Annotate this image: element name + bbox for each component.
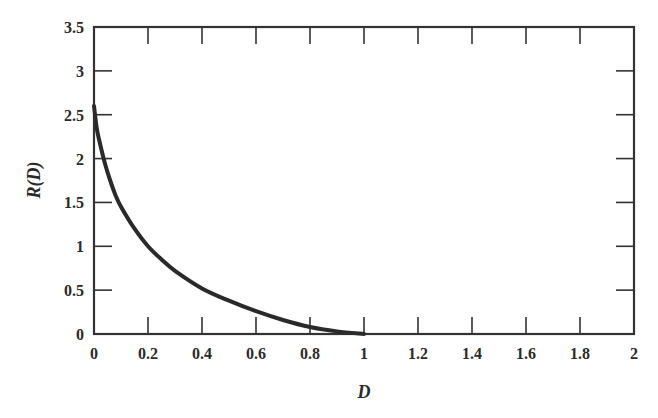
- y-tick-label: 3.5: [64, 19, 84, 36]
- rd-curve: [94, 106, 364, 334]
- x-tick-label: 0: [90, 345, 98, 362]
- y-tick-label: 0: [76, 326, 84, 343]
- y-tick-label: 1.5: [64, 194, 84, 211]
- x-tick-label: 0.2: [138, 345, 158, 362]
- y-tick-label: 0.5: [64, 282, 84, 299]
- x-tick-label: 0.8: [300, 345, 320, 362]
- x-tick-label: 1: [360, 345, 368, 362]
- x-tick-label: 1.8: [570, 345, 590, 362]
- x-tick-label: 1.2: [408, 345, 428, 362]
- axes-box: [94, 27, 634, 334]
- y-tick-label: 2.5: [64, 107, 84, 124]
- rate-distortion-chart: 00.20.40.60.811.21.41.61.82 00.511.522.5…: [0, 0, 658, 418]
- y-tick-label: 1: [76, 238, 84, 255]
- x-tick-label: 1.6: [516, 345, 536, 362]
- data-series: [94, 106, 364, 334]
- x-tick-label: 2: [630, 345, 638, 362]
- x-axis-title: D: [357, 382, 371, 402]
- y-axis-title: R(D): [24, 162, 45, 200]
- x-tick-label: 0.4: [192, 345, 212, 362]
- x-axis-ticks: 00.20.40.60.811.21.41.61.82: [90, 27, 638, 362]
- x-tick-label: 1.4: [462, 345, 482, 362]
- plot-frame: [94, 27, 634, 334]
- y-tick-label: 2: [76, 151, 84, 168]
- y-tick-label: 3: [76, 63, 84, 80]
- y-axis-ticks: 00.511.522.533.5: [64, 19, 634, 343]
- x-tick-label: 0.6: [246, 345, 266, 362]
